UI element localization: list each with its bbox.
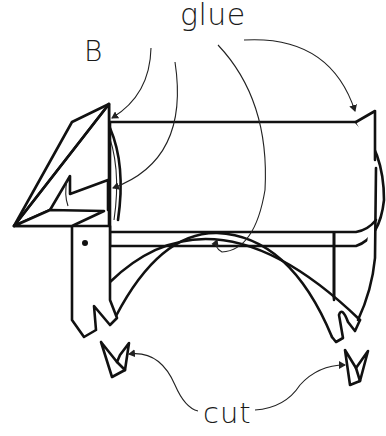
part-letter-label: B	[84, 38, 102, 66]
craft-diagram: glue B cut	[0, 0, 386, 436]
tube-body	[106, 111, 384, 246]
cut-notch-front	[101, 342, 129, 377]
front-leg	[72, 226, 117, 337]
eye	[82, 240, 88, 246]
cut-notch-back	[345, 350, 368, 385]
cut-label: cut	[203, 399, 252, 428]
head	[14, 104, 109, 226]
glue-label: glue	[180, 0, 246, 30]
